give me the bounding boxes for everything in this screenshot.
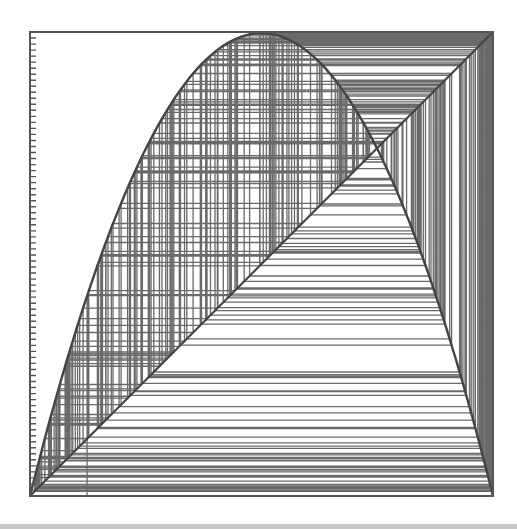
bottom-band <box>0 524 517 529</box>
y-tick-marks <box>31 38 36 490</box>
y-axis-ticks <box>31 38 36 490</box>
cobweb-chart <box>0 0 517 529</box>
